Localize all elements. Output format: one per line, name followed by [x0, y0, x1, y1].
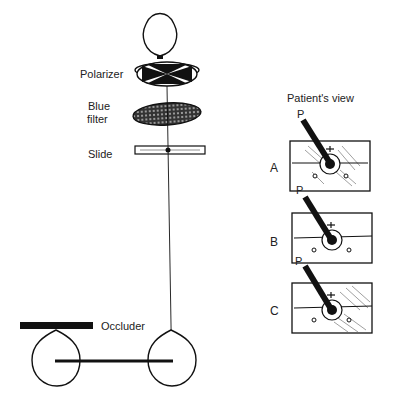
occluder-bar [20, 322, 93, 329]
occluder-label: Occluder [101, 320, 145, 332]
diagram-canvas [0, 0, 395, 400]
panel-a-figure [290, 120, 370, 191]
patient-view-title: Patient's view [287, 92, 354, 104]
panel-b-label: B [270, 236, 278, 248]
polarizer-label: Polarizer [80, 68, 123, 80]
left-eye-icon [32, 330, 80, 386]
slide-icon [135, 146, 205, 154]
right-eye-icon [148, 330, 196, 386]
panel-c-label: C [270, 305, 279, 317]
panel-c-figure [292, 266, 372, 333]
polarizer-icon [135, 62, 199, 86]
panel-a-pointer-label: P [297, 108, 304, 120]
panel-c-pointer-label: P [295, 255, 302, 267]
blue-filter-label-line1: Blue [88, 100, 110, 112]
slide-label: Slide [88, 148, 112, 160]
panel-a-label: A [270, 162, 278, 174]
panel-b-figure [292, 197, 372, 263]
lamp-icon [143, 14, 176, 60]
panel-b-pointer-label: P [296, 184, 303, 196]
blue-filter-label-line2: filter [87, 113, 108, 125]
